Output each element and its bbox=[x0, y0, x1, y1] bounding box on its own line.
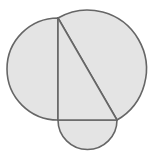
right-triangle-semicircles-figure bbox=[0, 0, 154, 162]
diagram-canvas: Right triangle with semicircles drawn on… bbox=[0, 0, 154, 162]
semicircle-on-leg-ab bbox=[7, 18, 58, 120]
semicircle-on-leg-bc bbox=[58, 120, 117, 150]
